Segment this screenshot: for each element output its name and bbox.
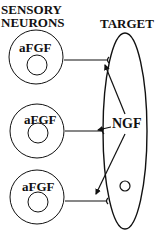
target-header: TARGET bbox=[100, 17, 154, 30]
neuron-3-terminal-icon bbox=[107, 198, 109, 204]
ngf-arrow-to-neuron-1-icon bbox=[105, 65, 125, 114]
neuron-2-label: aFGF bbox=[24, 113, 57, 126]
neuron-1 bbox=[9, 30, 109, 84]
neuron-1-terminal-icon bbox=[108, 57, 110, 63]
ngf-arrow-to-neuron-2-icon bbox=[98, 127, 111, 130]
neuron-3-label: aFGF bbox=[22, 180, 55, 193]
neuron-1-label: aFGF bbox=[19, 41, 52, 54]
ngf-label: NGF bbox=[111, 117, 143, 131]
target-nucleus-icon bbox=[120, 181, 130, 191]
neuron-3-nucleus bbox=[28, 192, 48, 212]
neurons-header: NEURONS bbox=[1, 16, 65, 29]
neuron-1-nucleus bbox=[27, 55, 47, 75]
ngf-afgf-diagram: SENSORY NEURONS TARGET aFGF aFGF aFGF NG… bbox=[0, 0, 158, 231]
target-tissue-ellipse bbox=[103, 33, 147, 229]
neuron-1-soma bbox=[9, 30, 63, 84]
